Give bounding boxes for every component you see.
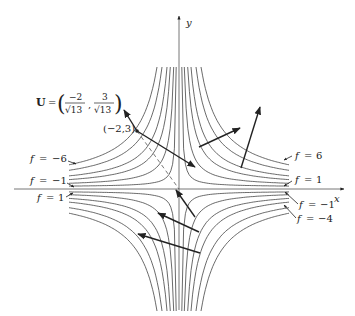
svg-text:=: = [39, 175, 47, 186]
level-curve-diagram: x y (−2,3) U = ( −2 √13 , 3 √13 ) f = −6… [0, 0, 355, 316]
point-label: (−2,3) [103, 123, 135, 134]
svg-text:f: f [296, 213, 303, 224]
svg-text:√13: √13 [94, 105, 111, 115]
level-curve [201, 213, 289, 311]
y-axis-label: y [185, 17, 192, 28]
svg-text:1: 1 [316, 174, 322, 185]
svg-text:=: = [308, 199, 316, 210]
level-curve [69, 67, 157, 165]
level-curve [191, 202, 289, 311]
svg-text:,: , [88, 99, 91, 110]
level-curve [188, 67, 289, 180]
svg-text:1: 1 [58, 192, 64, 203]
gradient-arrow [138, 234, 200, 253]
level-curve [182, 67, 289, 186]
level-curve [196, 208, 289, 311]
svg-text:=: = [304, 174, 312, 185]
svg-text:U: U [36, 96, 46, 109]
svg-text:=: = [306, 213, 314, 224]
svg-text:=: = [48, 97, 56, 108]
level-curve [69, 208, 162, 311]
svg-text:√13: √13 [65, 105, 82, 115]
svg-text:6: 6 [316, 150, 322, 161]
level-label-left: f = 1 [36, 192, 73, 203]
svg-text:f: f [294, 174, 301, 185]
svg-text:−1: −1 [52, 175, 67, 186]
svg-text:3: 3 [102, 92, 108, 102]
gradient-arrow [241, 107, 260, 168]
level-curve [191, 67, 289, 176]
svg-text:−4: −4 [318, 213, 333, 224]
svg-text:−2: −2 [69, 92, 82, 102]
level-curve [69, 67, 167, 176]
level-curve [69, 213, 157, 311]
level-curve [69, 67, 162, 170]
level-label-right: f = 1 [284, 174, 322, 186]
svg-text:=: = [46, 192, 54, 203]
svg-text:=: = [304, 150, 312, 161]
svg-text:): ) [114, 91, 123, 116]
point-marker [135, 129, 139, 133]
svg-text:f: f [29, 175, 36, 186]
unit-vector-label: U = ( −2 √13 , 3 √13 ) [36, 91, 123, 116]
level-curve [69, 198, 170, 311]
level-curve [69, 202, 167, 311]
level-curve [201, 67, 289, 165]
level-curve [196, 67, 289, 170]
level-label-left: f = −1 [29, 175, 74, 187]
svg-text:=: = [39, 153, 47, 164]
level-label-right: f = 6 [284, 150, 322, 161]
svg-text:f: f [36, 192, 43, 203]
svg-text:f: f [29, 153, 36, 164]
svg-text:f: f [298, 199, 305, 210]
level-curve [182, 192, 289, 311]
svg-text:−1: −1 [320, 199, 335, 210]
level-curve [188, 198, 289, 311]
svg-text:−6: −6 [52, 153, 67, 164]
level-label-right: f = −1 [285, 192, 335, 210]
level-label-left: f = −6 [29, 153, 76, 164]
svg-text:f: f [294, 150, 301, 161]
level-curve [69, 192, 176, 311]
x-axis-label: x [334, 193, 340, 204]
